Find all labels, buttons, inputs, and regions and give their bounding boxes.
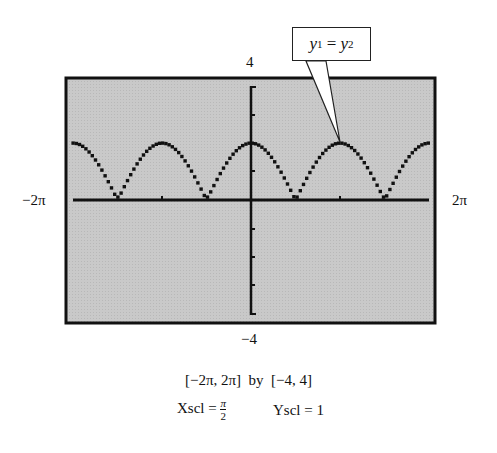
callout-var1: y bbox=[309, 34, 317, 54]
xscl-denominator: 2 bbox=[220, 410, 226, 422]
y-max-label: 4 bbox=[246, 55, 254, 70]
window-range: [−2π, 2π] by [−4, 4] bbox=[0, 372, 497, 389]
xscl-numerator: π bbox=[220, 397, 226, 410]
y-min-label: −4 bbox=[241, 332, 257, 347]
callout-label: y1 = y2 bbox=[292, 27, 371, 61]
x-max-label: 2π bbox=[452, 193, 467, 208]
callout-var2: y bbox=[341, 34, 349, 54]
callout-equals: = bbox=[322, 34, 340, 54]
callout-sub2: 2 bbox=[348, 38, 354, 50]
yscl-setting: Yscl = 1 bbox=[273, 402, 324, 419]
xscl-fraction: π2 bbox=[220, 397, 226, 422]
xscl-label: Xscl = bbox=[177, 400, 220, 416]
x-min-label: −2π bbox=[22, 193, 46, 208]
xscl-setting: Xscl = π2 bbox=[177, 397, 226, 422]
